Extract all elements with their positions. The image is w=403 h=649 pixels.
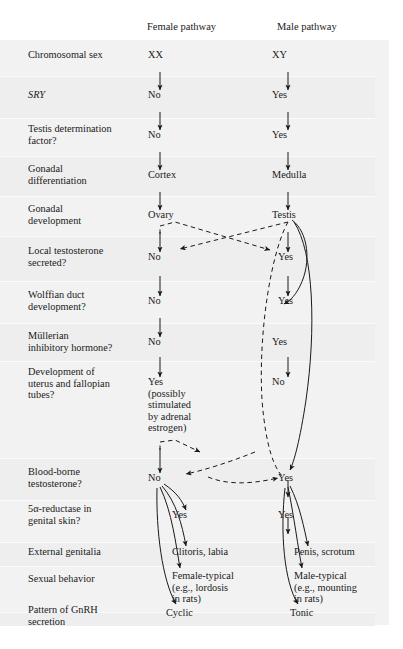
cell-male-blood-borne: Yes (278, 472, 293, 484)
cell-female-sexual-behavior: Female-typical (e.g., lordosis in rats) (172, 570, 234, 605)
cell-male-sexual-behavior: Male-typical (e.g., mounting in rats) (294, 570, 357, 605)
cell-male-external-genitalia: Penis, scrotum (294, 546, 355, 558)
cell-male-gnrh: Tonic (290, 607, 313, 619)
header-male-pathway: Male pathway (277, 21, 337, 32)
row-label-gnrh-pattern: Pattern of GnRH secretion (28, 604, 156, 627)
header-female-pathway: Female pathway (147, 21, 216, 32)
cell-male-5a-reductase: Yes (278, 509, 293, 521)
sexual-differentiation-flowchart: Female pathway Male pathway Chromosomal … (0, 0, 403, 649)
cell-female-tdf: No (148, 129, 161, 141)
row-label-blood-borne-testosterone: Blood-borne testosterone? (28, 466, 156, 489)
row-label-testis-determination-factor: Testis determination factor? (28, 123, 156, 146)
row-label-gonadal-development: Gonadal development (28, 203, 156, 226)
cell-female-gonadal-differentiation: Cortex (148, 169, 176, 181)
cell-male-gonadal-development: Testis (272, 209, 296, 221)
cell-male-mih: Yes (272, 336, 287, 348)
cell-female-gnrh: Cyclic (166, 607, 193, 619)
cell-female-5a-reductase: Yes (172, 509, 187, 521)
cell-male-wolffian: Yes (278, 295, 293, 307)
cell-female-mih: No (148, 336, 161, 348)
cell-female-blood-borne: No (148, 472, 161, 484)
row-label-gonadal-differentiation: Gonadal differentiation (28, 163, 156, 186)
row-label-5a-reductase: 5α-reductase in genital skin? (28, 503, 156, 526)
dashed-to-male-bloodborne (208, 477, 278, 483)
cell-female-uterus-fallopian: Yes (possibly stimulated by adrenal estr… (148, 376, 191, 434)
row-label-sexual-behavior: Sexual behavior (28, 573, 156, 585)
dashed-to-female-bloodborne (186, 452, 255, 474)
row-label-wolffian-duct: Wolffian duct development? (28, 289, 156, 312)
cell-female-external-genitalia: Clitoris, labia (172, 546, 228, 558)
cell-female-local-testosterone: No (148, 251, 161, 263)
cell-female-chromosomal-sex: XX (148, 49, 163, 61)
cell-female-gonadal-development: Ovary (148, 209, 174, 221)
row-label-mullerian-inhibitory-hormone: Müllerian inhibitory hormone? (28, 330, 156, 353)
cell-female-sry: No (148, 89, 161, 101)
cell-male-gonadal-differentiation: Medulla (272, 169, 306, 181)
curve-testis-to-bloodborne (290, 222, 312, 470)
row-label-uterus-fallopian: Development of uterus and fallopian tube… (28, 366, 156, 401)
dashed-testis-to-female-no (180, 222, 288, 249)
row-label-sry: SRY (28, 89, 156, 101)
dashed-ovary-to-male-yes (160, 222, 270, 250)
row-label-local-testosterone: Local testosterone secreted? (28, 245, 156, 268)
cell-male-local-testosterone: Yes (278, 251, 293, 263)
cell-male-uterus-fallopian: No (272, 376, 285, 388)
cell-female-wolffian: No (148, 295, 161, 307)
row-label-chromosomal-sex: Chromosomal sex (28, 49, 156, 61)
cell-male-chromosomal-sex: XY (272, 49, 287, 61)
row-label-external-genitalia: External genitalia (28, 546, 156, 558)
cell-male-tdf: Yes (272, 129, 287, 141)
cell-male-sry: Yes (272, 89, 287, 101)
dashed-female-bloodborne-in (160, 440, 200, 452)
